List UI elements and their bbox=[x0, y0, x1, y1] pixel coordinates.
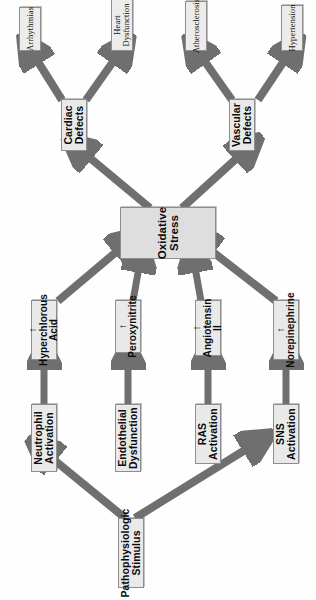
node-label: SNS Activation bbox=[275, 405, 297, 463]
edge-oxidative-stress-to-cardiac bbox=[78, 148, 150, 208]
node-label: Endothelial Dysfunction bbox=[117, 405, 139, 471]
edge-hyperchlorous-to-oxidative-stress bbox=[58, 242, 128, 301]
node-angiotensin-ii[interactable]: ↑ Angiotensin II bbox=[195, 300, 221, 356]
node-hypertension[interactable]: Hypertension bbox=[281, 5, 303, 51]
node-vascular-defects[interactable]: Vascular Defects bbox=[229, 99, 255, 151]
node-ras-activation[interactable]: RAS Activation bbox=[195, 404, 221, 464]
node-endothelial-dysfunction[interactable]: Endothelial Dysfunction bbox=[115, 404, 141, 472]
edge-cardiac-to-heart-dysfunction bbox=[86, 49, 122, 100]
node-peroxynitrite[interactable]: ↑ Peroxynitrite bbox=[115, 300, 141, 353]
node-label: ↑ Peroxynitrite bbox=[118, 295, 139, 357]
node-label: Cardiac Defects bbox=[63, 100, 85, 150]
node-atherosclerosis[interactable]: Atherosclerosis bbox=[185, 1, 207, 51]
node-oxidative-stress[interactable]: Oxidative Stress bbox=[120, 207, 216, 259]
diagram-canvas: Pathophysiologic Stimulus Neutrophil Act… bbox=[0, 0, 316, 600]
edge-vascular-to-hypertension bbox=[258, 49, 292, 100]
node-label: Oxidative Stress bbox=[156, 207, 180, 260]
node-label: ↑ Norepinephrine bbox=[276, 292, 297, 367]
edge-oxidative-stress-to-vascular bbox=[182, 148, 248, 208]
node-label: ↑ Angiotensin II bbox=[192, 299, 224, 358]
node-heart-dysfunction[interactable]: Heart Dysfunction bbox=[111, 0, 133, 51]
node-cardiac-defects[interactable]: Cardiac Defects bbox=[61, 99, 87, 151]
edge-vascular-to-atherosclerosis bbox=[196, 49, 232, 100]
node-label: Vascular Defects bbox=[231, 100, 253, 150]
node-arrhythmias[interactable]: Arrhythmias bbox=[19, 7, 41, 51]
node-norepinephrine[interactable]: ↑ Norepinephrine bbox=[273, 300, 299, 360]
node-label: Atherosclerosis bbox=[192, 0, 201, 53]
edge-cardiac-to-arrhythmias bbox=[30, 49, 62, 100]
diagram-stage: Pathophysiologic Stimulus Neutrophil Act… bbox=[0, 0, 316, 600]
node-label: Pathophysiologic Stimulus bbox=[120, 508, 142, 597]
node-neutrophil-activation[interactable]: Neutrophil Activation bbox=[31, 404, 57, 472]
node-sns-activation[interactable]: SNS Activation bbox=[273, 404, 299, 464]
node-pathophysiologic-stimulus[interactable]: Pathophysiologic Stimulus bbox=[118, 518, 144, 588]
node-label: Hypertension bbox=[288, 5, 297, 52]
node-label: ↑ Hyperchlorous Acid bbox=[28, 294, 60, 366]
node-hyperchlorous-acid[interactable]: ↑ Hyperchlorous Acid bbox=[31, 300, 57, 360]
node-label: Arrhythmias bbox=[26, 7, 35, 51]
node-label: Heart Dysfunction bbox=[113, 0, 131, 50]
node-label: Neutrophil Activation bbox=[33, 405, 55, 471]
node-label: RAS Activation bbox=[197, 405, 219, 463]
edge-angiotensin-to-oxidative-stress bbox=[193, 256, 201, 301]
